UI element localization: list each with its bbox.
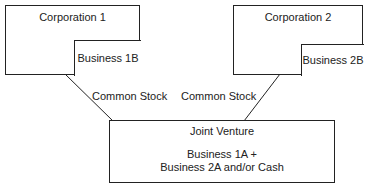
business-2b-label: Business 2B <box>302 54 364 66</box>
corporation-2-title: Corporation 2 <box>234 11 362 23</box>
corporation-1-box: Corporation 1 Business 1B <box>5 5 140 75</box>
business-2b-box: Business 2B <box>301 44 364 76</box>
joint-venture-line-1: Business 1A + <box>110 148 334 160</box>
edge-label-left: Common Stock <box>92 90 167 102</box>
joint-venture-title: Joint Venture <box>110 125 334 137</box>
joint-venture-line-2: Business 2A and/or Cash <box>110 161 334 173</box>
joint-venture-box: Joint Venture Business 1A + Business 2A … <box>109 120 335 183</box>
corporation-2-box: Corporation 2 Business 2B <box>233 5 363 75</box>
corporation-1-title: Corporation 1 <box>6 11 139 23</box>
business-1b-box: Business 1B <box>74 40 141 76</box>
business-1b-label: Business 1B <box>75 52 141 64</box>
edge-label-right: Common Stock <box>181 90 256 102</box>
